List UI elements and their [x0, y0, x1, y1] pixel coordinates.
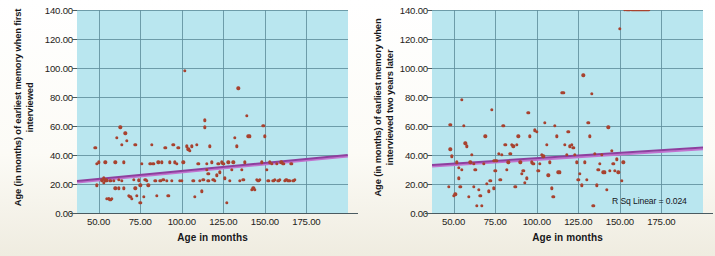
- data-point: [258, 178, 261, 181]
- data-point: [525, 176, 528, 179]
- x-axis-tick-label: 50.00: [442, 216, 465, 227]
- x-axis-line-left: [70, 213, 358, 214]
- data-point: [567, 130, 570, 133]
- data-point: [235, 145, 238, 148]
- data-point: [597, 168, 600, 171]
- data-point: [502, 124, 505, 127]
- gridline-vertical: [620, 10, 621, 213]
- data-point: [293, 178, 296, 181]
- data-point: [110, 197, 113, 200]
- figure-page: Age (in months) of earliest memory when …: [0, 0, 715, 256]
- y-axis-tick-mark: [427, 184, 432, 185]
- data-point: [603, 171, 606, 174]
- data-point: [278, 178, 281, 181]
- x-axis-tick-label: 75.00: [129, 216, 152, 227]
- data-point: [500, 153, 503, 156]
- data-point: [472, 162, 475, 165]
- y-axis-tick-label: 80.00: [405, 92, 428, 103]
- data-point: [237, 87, 240, 90]
- data-point: [180, 179, 183, 182]
- y-axis-title-right: Age (in months) of earliest memory when …: [372, 8, 395, 208]
- data-point: [572, 146, 575, 149]
- data-point: [228, 179, 231, 182]
- data-point: [555, 134, 558, 137]
- data-point: [183, 69, 186, 72]
- data-point: [266, 179, 269, 182]
- x-axis-title-right: Age in months: [432, 232, 703, 243]
- y-axis-tick-mark: [72, 39, 77, 40]
- data-point: [265, 168, 268, 171]
- gridline-vertical: [495, 10, 496, 213]
- y-axis-tick-mark: [72, 10, 77, 11]
- data-point: [487, 190, 490, 193]
- gridline-vertical: [537, 10, 538, 213]
- data-point: [165, 179, 168, 182]
- data-point: [543, 121, 546, 124]
- data-point: [460, 168, 463, 171]
- y-axis-title-left: Age (in months) of earliest memory when …: [12, 8, 35, 208]
- data-point: [547, 174, 550, 177]
- data-point: [124, 132, 127, 135]
- y-axis-tick-mark: [427, 68, 432, 69]
- data-point: [133, 187, 136, 190]
- data-point: [253, 188, 256, 191]
- y-axis-tick-mark: [72, 184, 77, 185]
- data-point: [615, 158, 618, 161]
- data-point: [449, 147, 452, 150]
- plot-area-right: [432, 10, 703, 213]
- data-point: [580, 184, 583, 187]
- data-point: [553, 124, 556, 127]
- data-point: [477, 188, 480, 191]
- data-point: [115, 136, 118, 139]
- data-point: [112, 179, 115, 182]
- y-axis-tick-label: 40.00: [405, 150, 428, 161]
- data-point: [475, 204, 478, 207]
- data-point: [467, 195, 470, 198]
- data-point: [457, 176, 460, 179]
- data-point: [470, 153, 473, 156]
- data-point: [233, 136, 236, 139]
- data-point: [132, 178, 135, 181]
- data-point: [207, 179, 210, 182]
- data-point: [482, 162, 485, 165]
- data-point: [172, 143, 175, 146]
- x-axis-tick-label: 100.00: [168, 216, 196, 227]
- data-point: [205, 168, 208, 171]
- data-point: [213, 179, 216, 182]
- data-point: [218, 171, 221, 174]
- data-point: [117, 187, 120, 190]
- gridline-vertical: [306, 10, 307, 213]
- data-point: [621, 161, 624, 164]
- data-point: [590, 92, 593, 95]
- data-point: [188, 149, 191, 152]
- data-point: [163, 146, 166, 149]
- gridline-vertical: [99, 10, 100, 213]
- data-point: [153, 179, 156, 182]
- data-point: [485, 182, 488, 185]
- gridline-vertical: [661, 10, 662, 213]
- x-axis-title-left: Age in months: [77, 232, 348, 243]
- data-point: [528, 134, 531, 137]
- data-point: [119, 126, 122, 129]
- data-point: [608, 169, 611, 172]
- y-axis-tick-label: 100.00: [400, 63, 428, 74]
- data-point: [225, 201, 228, 204]
- data-point: [618, 27, 621, 30]
- data-point: [290, 162, 293, 165]
- y-axis-tick-mark: [427, 126, 432, 127]
- y-axis-tick-mark: [72, 126, 77, 127]
- x-axis-line-right: [425, 213, 713, 214]
- data-point: [215, 174, 218, 177]
- data-point: [263, 134, 266, 137]
- data-point: [607, 126, 610, 129]
- data-point: [493, 169, 496, 172]
- x-axis-tick-label: 100.00: [523, 216, 551, 227]
- y-axis-tick-label: 140.00: [400, 5, 428, 16]
- data-point: [145, 179, 148, 182]
- data-point: [197, 162, 200, 165]
- data-point: [447, 185, 450, 188]
- data-point: [175, 162, 178, 165]
- data-point: [459, 185, 462, 188]
- data-point: [462, 124, 465, 127]
- x-axis-tick-label: 50.00: [87, 216, 110, 227]
